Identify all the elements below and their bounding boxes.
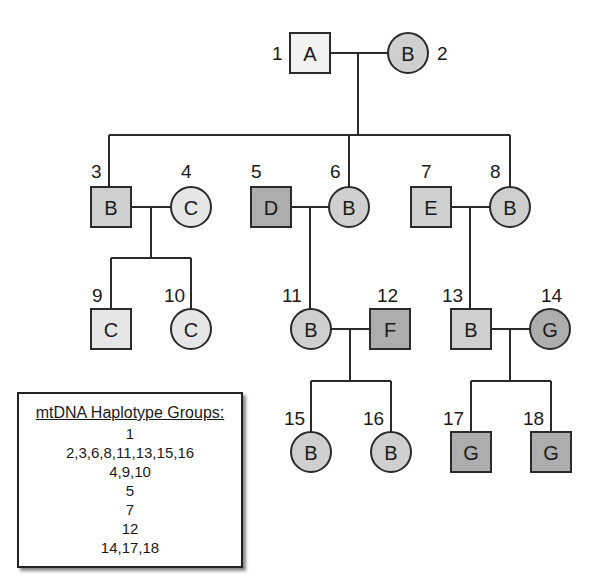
individual-number: 6 [330,161,341,182]
haplotype-letter: B [104,197,117,219]
haplotype-letter: B [304,442,317,464]
individual-11: B11 [282,285,331,349]
individual-3: B3 [91,161,131,227]
legend-group: 12 [19,519,241,538]
individual-4: C4 [171,161,211,227]
haplotype-letter: B [342,197,355,219]
individual-number: 13 [442,285,463,306]
individual-10: C10 [164,285,211,349]
legend-group: 14,17,18 [19,538,241,557]
haplotype-letter: D [264,197,278,219]
legend-group: 5 [19,481,241,500]
individual-number: 12 [377,285,398,306]
individual-number: 16 [363,408,384,429]
haplotype-letter: G [543,442,559,464]
individual-number: 3 [91,161,102,182]
individual-16: B16 [363,408,411,472]
individual-number: 10 [164,285,185,306]
haplotype-letter: C [184,197,198,219]
haplotype-letter: B [384,442,397,464]
individual-number: 9 [92,285,103,306]
individual-7: E7 [411,161,451,227]
haplotype-letter: C [184,319,198,341]
individual-number: 11 [282,285,302,306]
haplotype-letter: F [384,319,396,341]
individual-14: G14 [530,285,570,349]
haplotype-letter: B [401,43,414,65]
individual-number: 7 [421,161,432,182]
individual-5: D5 [251,161,291,227]
legend-group: 2,3,6,8,11,13,15,16 [19,443,241,462]
haplotype-letter: C [104,319,118,341]
individual-17: G17 [443,408,491,472]
haplotype-letter: G [463,442,479,464]
legend-group: 1 [19,424,241,443]
pedigree-lines [109,53,551,432]
haplotype-legend: mtDNA Haplotype Groups: 1 2,3,6,8,11,13,… [17,392,243,568]
individual-12: F12 [370,285,410,349]
individual-number: 8 [490,161,501,182]
individual-number: 15 [284,408,305,429]
individual-number: 5 [251,161,262,182]
individual-number: 2 [437,43,448,64]
individual-1: A1 [272,33,330,73]
haplotype-letter: G [542,319,558,341]
haplotype-letter: E [424,197,437,219]
individual-number: 17 [443,408,464,429]
individual-18: G18 [523,408,571,472]
haplotype-letter: B [503,197,516,219]
individual-number: 4 [181,161,192,182]
legend-group: 4,9,10 [19,462,241,481]
individual-number: 18 [523,408,544,429]
legend-group: 7 [19,500,241,519]
individual-number: 14 [541,285,563,306]
haplotype-letter: B [464,319,477,341]
legend-title: mtDNA Haplotype Groups: [36,403,225,422]
legend-groups: 1 2,3,6,8,11,13,15,16 4,9,10 5 7 12 14,1… [19,424,241,557]
individual-13: B13 [442,285,491,349]
individual-15: B15 [284,408,331,472]
haplotype-letter: A [303,43,317,65]
individual-number: 1 [272,43,283,64]
haplotype-letter: B [304,319,317,341]
individual-2: B2 [388,33,448,73]
